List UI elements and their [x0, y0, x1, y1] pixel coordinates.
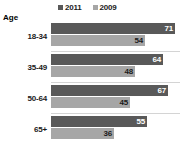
bar-pair-50-64: 67 45 — [51, 85, 180, 112]
bar-row-2009: 54 — [51, 35, 180, 46]
bar-row-2009: 45 — [51, 97, 180, 108]
bar-row-2011: 64 — [51, 54, 180, 65]
chart-legend: 2011 2009 — [58, 1, 117, 13]
legend-item-2011[interactable]: 2011 — [58, 3, 82, 12]
legend-swatch-icon-2009 — [93, 5, 98, 10]
plot-area: 18-34 71 54 35-49 6 — [0, 21, 180, 149]
bar-value-2009-18-34: 54 — [135, 36, 146, 45]
bar-chart: 2011 2009 Age 18-34 71 54 — [0, 0, 180, 150]
bar-value-2011-65-plus: 55 — [137, 117, 148, 126]
bar-row-2009: 36 — [51, 128, 180, 139]
bar-pair-65-plus: 55 36 — [51, 116, 180, 143]
category-label-65-plus: 65+ — [0, 114, 47, 145]
bar-row-2011: 55 — [51, 116, 180, 127]
bar-value-2011-35-49: 64 — [153, 55, 164, 64]
bar-value-2011-50-64: 67 — [158, 86, 169, 95]
bar-row-2009: 48 — [51, 66, 180, 77]
bar-group-18-34: 18-34 71 54 — [0, 21, 180, 52]
bar-value-2009-50-64: 45 — [120, 98, 131, 107]
bar-2009-18-34[interactable]: 54 — [51, 35, 145, 46]
bar-2011-50-64[interactable]: 67 — [51, 85, 168, 96]
bar-value-2009-65-plus: 36 — [104, 129, 115, 138]
bar-group-50-64: 50-64 67 45 — [0, 83, 180, 114]
bar-row-2011: 67 — [51, 85, 180, 96]
category-label-50-64: 50-64 — [0, 83, 47, 114]
bar-2011-65-plus[interactable]: 55 — [51, 116, 147, 127]
legend-item-2009[interactable]: 2009 — [93, 3, 117, 12]
category-label-18-34: 18-34 — [0, 21, 47, 52]
bar-2011-35-49[interactable]: 64 — [51, 54, 163, 65]
legend-label-2009: 2009 — [100, 3, 117, 12]
bar-group-65-plus: 65+ 55 36 — [0, 114, 180, 145]
category-label-35-49: 35-49 — [0, 52, 47, 83]
bar-group-35-49: 35-49 64 48 — [0, 52, 180, 83]
bar-pair-35-49: 64 48 — [51, 54, 180, 81]
bar-row-2011: 71 — [51, 23, 180, 34]
bar-value-2009-35-49: 48 — [125, 67, 136, 76]
bar-pair-18-34: 71 54 — [51, 23, 180, 50]
bar-2009-65-plus[interactable]: 36 — [51, 128, 114, 139]
bar-value-2011-18-34: 71 — [165, 24, 176, 33]
bar-2009-35-49[interactable]: 48 — [51, 66, 135, 77]
legend-label-2011: 2011 — [65, 3, 82, 12]
bar-2011-18-34[interactable]: 71 — [51, 23, 175, 34]
legend-swatch-icon-2011 — [58, 5, 63, 10]
bar-2009-50-64[interactable]: 45 — [51, 97, 130, 108]
